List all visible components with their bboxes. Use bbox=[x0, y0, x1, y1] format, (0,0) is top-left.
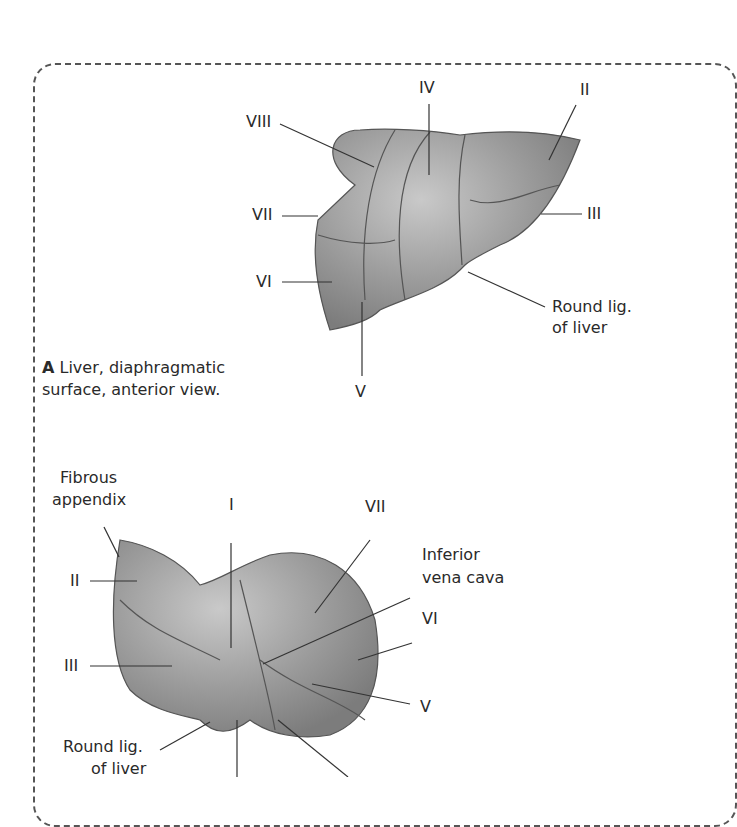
label-round-ligament-line1: Round lig. bbox=[552, 297, 632, 316]
label-segment-iii: III bbox=[587, 204, 601, 223]
label-segment-vi-b: VI bbox=[422, 609, 438, 628]
label-segment-v-b: V bbox=[420, 697, 431, 716]
label-round-ligament-line2: of liver bbox=[552, 318, 607, 337]
label-segment-ii: II bbox=[580, 80, 589, 99]
label-ivc-line1: Inferior bbox=[422, 545, 480, 564]
label-segment-i: I bbox=[229, 495, 234, 514]
label-segment-iv: IV bbox=[419, 78, 435, 97]
caption-line1: Liver, diaphragmatic bbox=[59, 358, 225, 377]
label-segment-vi: VI bbox=[256, 272, 272, 291]
liver-visceral-view bbox=[113, 540, 378, 737]
label-fibrous-appendix-line1: Fibrous bbox=[60, 468, 117, 487]
label-round-ligament-b-line1: Round lig. bbox=[63, 737, 143, 756]
label-ivc-line2: vena cava bbox=[422, 568, 504, 587]
caption-A: A Liver, diaphragmatic surface, anterior… bbox=[42, 357, 225, 400]
label-segment-vii: VII bbox=[252, 205, 272, 224]
label-segment-ii-b: II bbox=[70, 571, 79, 590]
label-segment-v: V bbox=[355, 382, 366, 401]
label-segment-vii-b: VII bbox=[365, 497, 385, 516]
liver-anterior-view bbox=[315, 129, 580, 330]
caption-letter: A bbox=[42, 358, 54, 377]
label-segment-iii-b: III bbox=[64, 656, 78, 675]
label-segment-viii: VIII bbox=[246, 112, 271, 131]
label-round-ligament-b-line2: of liver bbox=[91, 759, 146, 778]
label-fibrous-appendix-line2: appendix bbox=[52, 490, 126, 509]
caption-line2: surface, anterior view. bbox=[42, 380, 220, 399]
